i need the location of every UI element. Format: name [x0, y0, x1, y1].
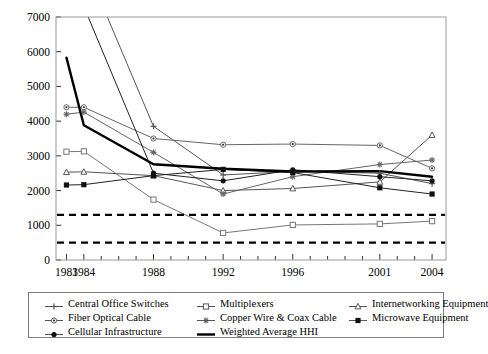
legend-swatch-dot-circle-icon	[43, 312, 65, 323]
data-point-open-square	[203, 304, 208, 309]
y-tick-label: 6000	[27, 46, 50, 58]
legend-item[interactable]: Weighted Average HHI	[195, 325, 347, 338]
x-tick-label: 1984	[72, 266, 95, 278]
data-point-filled-circle	[429, 178, 434, 183]
legend-item[interactable]: Central Office Switches	[43, 297, 195, 310]
data-point-dot	[53, 319, 55, 321]
data-point-filled-circle	[221, 178, 226, 183]
legend-label: Central Office Switches	[68, 298, 169, 309]
series-line	[66, 0, 432, 184]
legend-swatch-none-icon	[195, 326, 217, 337]
data-point-filled-circle	[290, 167, 295, 172]
legend-item[interactable]: Microwave Equipment	[347, 311, 459, 324]
legend-swatch-triangle-icon	[347, 298, 369, 309]
y-tick-label: 4000	[27, 115, 50, 127]
series-line	[66, 107, 432, 168]
data-point-filled-circle	[151, 171, 156, 176]
legend-label: Cellular Infrastructure	[68, 326, 162, 337]
x-tick-label: 1988	[142, 266, 165, 278]
y-tick-label: 7000	[27, 11, 50, 23]
data-point-dot	[65, 106, 67, 108]
data-point-open-square	[290, 222, 295, 227]
data-point-filled-square	[377, 185, 382, 190]
legend-label: Weighted Average HHI	[220, 326, 318, 337]
data-point-filled-square	[64, 182, 69, 187]
y-tick-label: 5000	[27, 80, 50, 92]
line-chart: 0100020003000400050006000700019831984198…	[0, 0, 471, 286]
x-tick-label: 1992	[212, 266, 235, 278]
data-point-open-square	[151, 197, 156, 202]
legend-item[interactable]: Multiplexers	[195, 297, 347, 310]
y-tick-label: 1000	[27, 219, 50, 231]
data-point-triangle	[429, 132, 435, 138]
series-line	[66, 58, 432, 177]
x-tick-label: 2004	[421, 266, 444, 278]
y-tick-label: 0	[44, 254, 50, 266]
data-point-filled-circle	[377, 174, 382, 179]
legend-item[interactable]: Internetworking Equipment	[347, 297, 459, 310]
data-point-dot	[152, 137, 154, 139]
x-tick-label: 1996	[281, 266, 304, 278]
x-tick-label: 2001	[368, 266, 391, 278]
data-point-dot	[431, 167, 433, 169]
data-point-open-square	[64, 149, 69, 154]
chart-svg: 0100020003000400050006000700019831984198…	[0, 0, 471, 286]
series-line	[66, 0, 432, 181]
legend-item[interactable]: Fiber Optical Cable	[43, 311, 195, 324]
data-point-dot	[379, 144, 381, 146]
data-point-dot	[83, 106, 85, 108]
legend-label: Fiber Optical Cable	[68, 312, 151, 323]
data-point-open-square	[221, 230, 226, 235]
legend-swatch-star-icon	[195, 312, 217, 323]
data-point-dot	[292, 143, 294, 145]
chart-legend: Central Office SwitchesMultiplexersInter…	[28, 292, 444, 338]
data-point-open-square	[81, 149, 86, 154]
data-point-filled-square	[81, 182, 86, 187]
data-point-filled-square	[355, 318, 360, 323]
reference-lines	[57, 215, 445, 243]
legend-swatch-open-square-icon	[195, 298, 217, 309]
legend-grid: Central Office SwitchesMultiplexersInter…	[29, 293, 443, 338]
data-point-open-square	[377, 221, 382, 226]
legend-label: Internetworking Equipment	[372, 298, 488, 309]
y-tick-label: 2000	[27, 185, 50, 197]
legend-swatch-filled-square-icon	[347, 312, 369, 323]
data-point-filled-square	[429, 191, 434, 196]
legend-label: Microwave Equipment	[372, 312, 469, 323]
series-line	[66, 151, 432, 233]
series-layer	[66, 0, 432, 233]
series-line	[66, 135, 432, 191]
data-point-open-square	[429, 219, 434, 224]
legend-swatch-plus-icon	[43, 298, 65, 309]
data-point-filled-circle	[51, 332, 56, 337]
legend-item[interactable]: Copper Wire & Coax Cable	[195, 311, 347, 324]
legend-swatch-filled-circle-icon	[43, 326, 65, 337]
y-tick-label: 3000	[27, 150, 50, 162]
legend-item[interactable]: Cellular Infrastructure	[43, 325, 195, 338]
legend-label: Multiplexers	[220, 298, 274, 309]
data-point-filled-square	[221, 167, 226, 172]
data-point-dot	[222, 144, 224, 146]
legend-label: Copper Wire & Coax Cable	[220, 312, 337, 323]
